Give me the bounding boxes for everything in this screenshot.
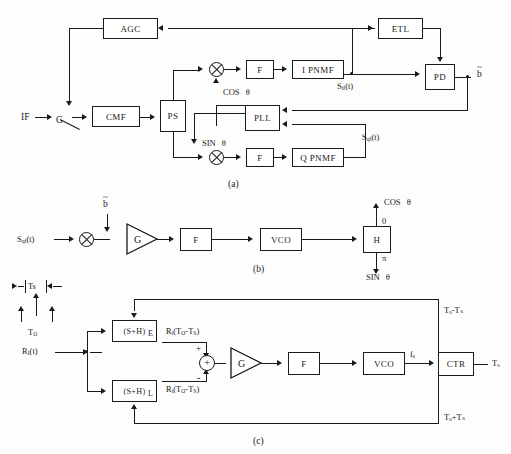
sin-text-b: SIN bbox=[366, 272, 380, 282]
line-split-down-branch bbox=[87, 391, 101, 392]
line-to-stem bbox=[36, 296, 37, 316]
line-h-up-b bbox=[376, 208, 377, 226]
block-pd: PD bbox=[425, 64, 455, 90]
line-mixer-out-b bbox=[94, 239, 110, 240]
arrow-qmixer-to-f bbox=[236, 154, 241, 160]
line-f-to-vco-b bbox=[212, 239, 248, 240]
label-cos-theta-b: COS θ bbox=[384, 198, 411, 207]
label-ctr-out-to: Tₒ bbox=[492, 359, 500, 368]
sin-theta-glyph: θ bbox=[222, 138, 226, 148]
line-qpnmf-right bbox=[344, 157, 366, 158]
arrow-early-tick bbox=[18, 306, 24, 311]
line-pd-fb-down bbox=[467, 77, 468, 110]
label-bhat-a: ~ b bbox=[477, 70, 482, 80]
arrow-fb-into-pll bbox=[282, 107, 287, 113]
block-vco-panel-c: VCO bbox=[363, 352, 405, 375]
line-agc-left bbox=[69, 28, 103, 29]
line-vco-to-h-b bbox=[302, 239, 352, 240]
caption-panel-b: (b) bbox=[253, 264, 264, 274]
line-pll-cos-up bbox=[216, 105, 217, 126]
arrow-into-pll-low bbox=[282, 121, 287, 127]
ri-e-a5: ) bbox=[196, 326, 199, 336]
arrow-bhat-into-mixer-b bbox=[104, 227, 110, 232]
arrow-to-center bbox=[33, 293, 39, 298]
label-sh-early-tag: E bbox=[148, 330, 153, 338]
line-ctr-out bbox=[474, 364, 488, 365]
ri-arg: (t) bbox=[30, 346, 38, 356]
mixer-q-arm bbox=[209, 150, 224, 165]
label-ri-late: Ri(TO-TS) bbox=[166, 385, 199, 395]
line-split-vert bbox=[87, 331, 88, 391]
line-ipnmf-to-pd bbox=[344, 74, 415, 75]
to-sub: O bbox=[33, 331, 37, 337]
line-early-stem bbox=[21, 310, 22, 322]
arrow-tap-to-etl bbox=[368, 25, 373, 31]
s-if-arg: (t) bbox=[345, 81, 353, 91]
cos-theta-glyph-b: θ bbox=[407, 197, 411, 207]
line-into-pll-low bbox=[292, 124, 366, 125]
label-bhat-b: ~ b bbox=[103, 200, 108, 210]
sum-plus-glyph: + bbox=[204, 358, 210, 368]
tick-ts-a bbox=[25, 280, 26, 293]
block-ps: PS bbox=[160, 100, 186, 132]
arrow-cmf-to-ps bbox=[150, 114, 155, 120]
cos-theta-glyph: θ bbox=[246, 87, 250, 97]
amp-g-label-c: G bbox=[238, 358, 245, 369]
line-sum-out bbox=[215, 363, 226, 364]
amp-triangle-c bbox=[229, 346, 263, 380]
arrow-f-to-ipnmf bbox=[282, 66, 287, 72]
line-late-stem bbox=[52, 310, 53, 322]
line-ts-left bbox=[18, 286, 24, 287]
line-etl-down bbox=[440, 28, 441, 58]
fs-sub: s bbox=[413, 353, 415, 359]
arrow-ipnmf-to-pd bbox=[415, 71, 420, 77]
block-i-pnmf: I PNMF bbox=[292, 60, 344, 79]
caption-panel-c: (c) bbox=[253, 436, 264, 446]
s-qf-arg-b: (t) bbox=[26, 234, 34, 244]
label-s-if: Sif(t) bbox=[337, 82, 353, 92]
line-ctr-fb-bottom bbox=[134, 423, 439, 424]
amp-triangle-b bbox=[125, 222, 159, 256]
arrow-sin-to-mixer bbox=[191, 139, 197, 144]
line-ts-right bbox=[53, 286, 62, 287]
line-f-to-ipnmf bbox=[274, 69, 282, 70]
block-f-i-arm: F bbox=[246, 60, 274, 79]
arrow-ps-to-i-mixer bbox=[198, 66, 203, 72]
line-etl-right bbox=[423, 28, 441, 29]
arrow-into-agc bbox=[158, 25, 163, 31]
arrow-ts-left bbox=[12, 283, 17, 289]
arrow-gate-to-cmf bbox=[82, 114, 87, 120]
block-pll: PLL bbox=[245, 105, 280, 131]
arrow-h-cos-b bbox=[373, 203, 379, 208]
line-pll-sin-down bbox=[194, 113, 195, 140]
block-vco-panel-b: VCO bbox=[260, 228, 302, 251]
line-sif-tap-up bbox=[352, 28, 353, 74]
sin-text: SIN bbox=[202, 138, 216, 148]
line-amp-to-f-b bbox=[157, 239, 169, 240]
caption-panel-a: (a) bbox=[228, 179, 239, 189]
arrow-etl-to-pd bbox=[437, 57, 443, 62]
block-amp-g-b: G bbox=[125, 222, 159, 256]
mixer-i-arm bbox=[209, 62, 224, 77]
arrow-to-sh-early bbox=[101, 328, 106, 334]
line-vco-to-ctr bbox=[405, 363, 429, 364]
arrow-agc-to-switch bbox=[66, 101, 72, 106]
block-amp-g-c: G bbox=[229, 346, 263, 380]
label-to-minus-ts: Tₒ-Tₛ bbox=[444, 306, 463, 315]
label-phase-zero-b: 0 bbox=[382, 217, 386, 226]
line-gate-out bbox=[72, 117, 82, 118]
line-ipnmf-stub bbox=[352, 69, 353, 75]
line-to-agc bbox=[168, 28, 375, 29]
line-ri-main bbox=[55, 352, 83, 353]
block-ctr: CTR bbox=[438, 352, 474, 376]
label-ri-early: Ri(TO-TS) bbox=[166, 327, 199, 337]
line-fb-top-down bbox=[134, 299, 135, 311]
line-imixer-to-f bbox=[224, 69, 236, 70]
line-bhat-down-b bbox=[107, 214, 108, 228]
line-h-down-b bbox=[376, 253, 377, 270]
arrow-sqf-into-mixer-b bbox=[69, 236, 74, 242]
label-sum-minus: - bbox=[197, 373, 200, 383]
arrow-ps-to-q-mixer bbox=[198, 154, 203, 160]
line-amp-to-f-c bbox=[261, 363, 277, 364]
line-ctr-fb-down bbox=[438, 376, 439, 424]
